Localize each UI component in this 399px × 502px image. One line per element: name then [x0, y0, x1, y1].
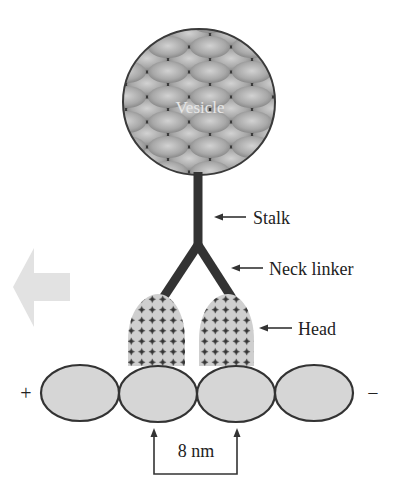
- bracket-arrow-right-icon: [234, 428, 241, 437]
- tubulin-dimer-4: [275, 365, 353, 421]
- vesicle-label: Vesicle: [175, 98, 224, 117]
- head-label: Head: [298, 319, 336, 339]
- motor-head-left: [128, 294, 185, 366]
- neck-linker-label: Neck linker: [269, 259, 353, 279]
- tubulin-dimer-3: [197, 366, 275, 422]
- tubulin-dimer-1: [41, 365, 119, 421]
- bracket-arrow-left-icon: [151, 428, 158, 437]
- step-size-label: 8 nm: [178, 441, 215, 461]
- plus-end-label: +: [20, 382, 31, 404]
- minus-end-label: −: [367, 382, 378, 404]
- kinesin-diagram: Vesicle Stalk Neck linker Head + − 8 nm: [0, 0, 399, 502]
- vesicle: Vesicle: [120, 25, 280, 180]
- kinesin-stalk: [163, 172, 232, 298]
- direction-arrow-left-icon: [13, 248, 70, 327]
- microtubule: [41, 365, 353, 422]
- motor-head-right: [199, 294, 254, 366]
- stalk-label: Stalk: [253, 208, 290, 228]
- neck-linker-right: [198, 245, 232, 298]
- tubulin-dimer-2: [119, 366, 197, 422]
- neck-linker-left: [163, 245, 198, 298]
